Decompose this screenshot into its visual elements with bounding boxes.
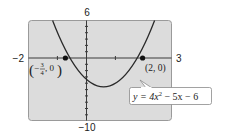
xmax-label: 3 (176, 53, 182, 64)
svg-text:3: 3 (41, 61, 44, 68)
svg-text:): ) (57, 62, 62, 79)
svg-text:, 0: , 0 (45, 63, 55, 73)
equation-label: y = 4x2 − 5x − 6 (132, 90, 198, 102)
root-point-two (140, 55, 145, 60)
svg-text:−: − (34, 63, 39, 73)
xmin-label: −2 (13, 53, 25, 64)
ymin-label: −10 (79, 122, 96, 133)
point-label-two: (2, 0) (145, 63, 166, 74)
root-point-neg-three-quarters (63, 55, 68, 60)
graph-figure: 6 −10 −2 3 ( − 3 4 , 0 ) (2, 0) y = 4x2 … (0, 0, 225, 139)
ymax-label: 6 (84, 7, 90, 18)
